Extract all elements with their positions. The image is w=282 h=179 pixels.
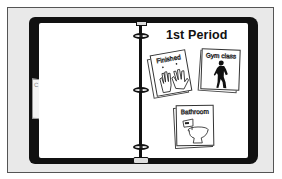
spine-bottom-clip — [133, 157, 149, 164]
gym-class-card-label: Gym class — [202, 51, 239, 59]
person-exercising-icon — [211, 60, 232, 91]
binder-ring-middle — [133, 87, 149, 93]
bathroom-card-label: Bathroom — [177, 108, 213, 116]
hands-icon — [154, 60, 193, 95]
page-title: 1st Period — [166, 28, 227, 42]
finished-card[interactable]: Finished — [150, 49, 193, 97]
binder-ring-bottom — [133, 144, 149, 150]
tab-letter: C — [34, 82, 38, 88]
bathroom-card[interactable]: Bathroom — [176, 105, 215, 147]
binder-ring-top — [133, 33, 149, 39]
toilet-icon — [181, 117, 211, 146]
gym-class-card[interactable]: Gym class — [200, 48, 240, 90]
spine-top-clip — [136, 21, 147, 26]
left-page — [39, 23, 139, 158]
